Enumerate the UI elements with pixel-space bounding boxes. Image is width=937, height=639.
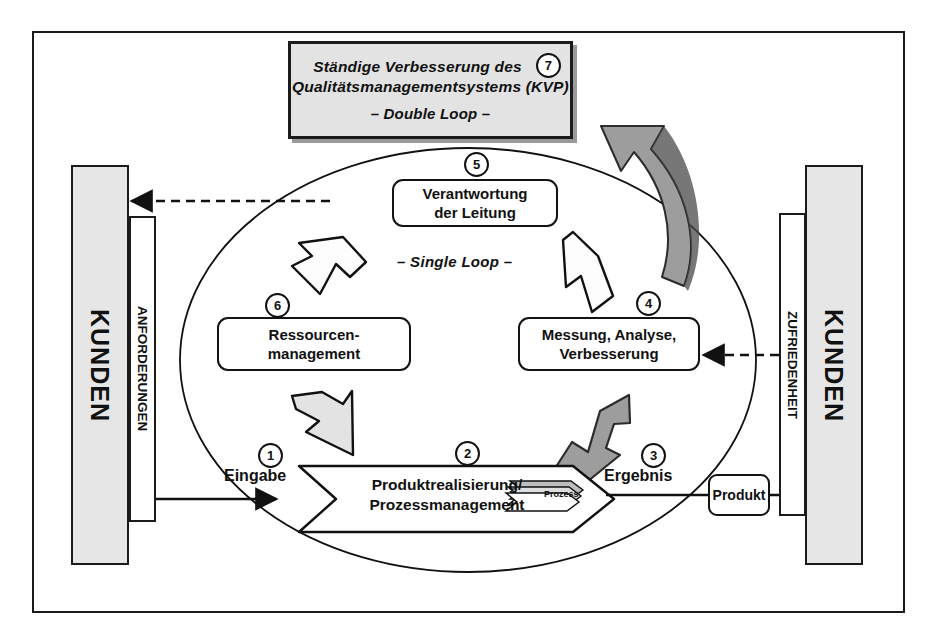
- node-produkt-line2: Prozessmanagement: [357, 495, 537, 515]
- node-ressourcen-line2: management: [268, 344, 361, 363]
- left-customer-label: KUNDEN: [85, 309, 115, 422]
- single-loop-label: – Single Loop –: [397, 253, 512, 270]
- node-produkt-line1: Produktrealisierung/: [357, 475, 537, 495]
- process-stack-label: Prozess: [544, 489, 579, 499]
- node-produktrealisierung: Produktrealisierung/ Prozessmanagement: [357, 475, 537, 515]
- produkt-box: Produkt: [708, 474, 770, 516]
- node-ressourcenmanagement: Ressourcen- management: [217, 317, 411, 371]
- node-verantwortung-line1: Verantwortung: [422, 184, 527, 203]
- step-number-4: 4: [636, 291, 661, 316]
- node-ressourcen-line1: Ressourcen-: [268, 325, 361, 344]
- right-customer-bar: KUNDEN: [805, 165, 863, 565]
- kvp-line1: Ständige Verbesserung des: [313, 57, 548, 77]
- kvp-step-number: 7: [536, 53, 561, 78]
- anforderungen-label: ANFORDERUNGEN: [135, 306, 150, 431]
- node-verantwortung-der-leitung: Verantwortung der Leitung: [392, 179, 558, 227]
- node-messung-analyse-verbesserung: Messung, Analyse, Verbesserung: [518, 317, 700, 371]
- inner-arrow-left-bottom: [292, 391, 353, 455]
- step-number-5: 5: [464, 152, 489, 177]
- right-customer-label: KUNDEN: [819, 309, 849, 422]
- left-customer-bar: KUNDEN: [71, 165, 129, 565]
- inner-arrow-right-top: [563, 232, 613, 312]
- step-number-6: 6: [265, 293, 290, 318]
- output-label: Ergebnis: [604, 467, 672, 485]
- step-number-2: 2: [455, 441, 480, 466]
- step-number-3: 3: [641, 443, 666, 468]
- anforderungen-box: ANFORDERUNGEN: [129, 216, 156, 522]
- kvp-line3: – Double Loop –: [371, 104, 491, 124]
- node-messung-line1: Messung, Analyse,: [542, 325, 677, 344]
- kvp-line2: Qualitätsmanagementsystems (KVP): [292, 77, 569, 97]
- inner-arrow-left-top: [292, 237, 366, 294]
- zufriedenheit-label: ZUFRIEDENHEIT: [785, 311, 800, 419]
- zufriedenheit-box: ZUFRIEDENHEIT: [779, 213, 806, 516]
- node-messung-line2: Verbesserung: [542, 344, 677, 363]
- input-label: Eingabe: [224, 467, 286, 485]
- kvp-box: Ständige Verbesserung des Qualitätsmanag…: [288, 41, 573, 139]
- diagram-canvas: Ständige Verbesserung des Qualitätsmanag…: [0, 0, 937, 639]
- node-verantwortung-line2: der Leitung: [422, 203, 527, 222]
- step-number-1: 1: [258, 443, 283, 468]
